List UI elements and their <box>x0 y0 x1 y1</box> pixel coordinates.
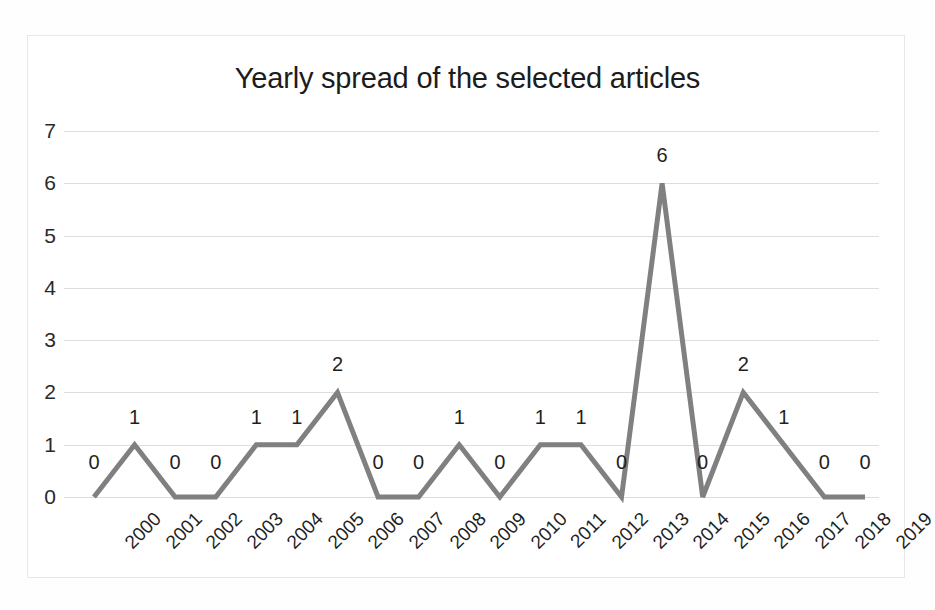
data-point-label: 1 <box>251 405 262 428</box>
x-axis-tick-label: 2006 <box>364 508 409 553</box>
y-axis-tick-label: 1 <box>30 433 56 457</box>
line-series <box>60 120 905 510</box>
x-axis-tick-label: 2012 <box>607 508 652 553</box>
x-axis-tick-label: 2018 <box>851 508 896 553</box>
x-axis-tick-label: 2014 <box>688 508 733 553</box>
data-point-label: 0 <box>494 451 505 474</box>
data-point-label: 1 <box>129 405 140 428</box>
y-axis-tick-label: 3 <box>30 328 56 352</box>
y-axis-tick-label: 4 <box>30 276 56 300</box>
data-point-label: 0 <box>819 451 830 474</box>
x-axis-tick-label: 2016 <box>770 508 815 553</box>
data-point-label: 2 <box>738 353 749 376</box>
x-axis-tick-label: 2011 <box>566 508 610 552</box>
data-point-label: 0 <box>616 451 627 474</box>
chart-title: Yearly spread of the selected articles <box>0 62 935 95</box>
y-axis-tick-label: 6 <box>30 171 56 195</box>
data-point-label: 1 <box>778 405 789 428</box>
y-axis-tick-label: 7 <box>30 119 56 143</box>
data-point-label: 0 <box>88 451 99 474</box>
data-point-label: 0 <box>170 451 181 474</box>
data-point-label: 0 <box>859 451 870 474</box>
x-axis: 2000200120022003200420052006200720082009… <box>60 500 905 590</box>
data-point-label: 0 <box>413 451 424 474</box>
data-point-label: 1 <box>535 405 546 428</box>
data-point-label: 6 <box>657 144 668 167</box>
data-point-label: 0 <box>697 451 708 474</box>
x-axis-tick-label: 2004 <box>283 508 328 553</box>
x-axis-tick-label: 2000 <box>120 508 165 553</box>
x-axis-tick-label: 2015 <box>729 508 774 553</box>
x-axis-tick-label: 2005 <box>323 508 368 553</box>
data-point-label: 1 <box>291 405 302 428</box>
data-point-label: 1 <box>575 405 586 428</box>
scanned-page: Yearly spread of the selected articles 0… <box>0 0 935 610</box>
x-axis-tick-label: 2013 <box>648 508 693 553</box>
data-point-label: 0 <box>210 451 221 474</box>
y-axis-tick-label: 0 <box>30 485 56 509</box>
x-axis-tick-label: 2010 <box>526 508 571 553</box>
x-axis-tick-label: 2019 <box>891 508 935 553</box>
y-axis-tick-label: 2 <box>30 380 56 404</box>
data-point-label: 0 <box>372 451 383 474</box>
x-axis-tick-label: 2009 <box>486 508 531 553</box>
y-axis-tick-label: 5 <box>30 224 56 248</box>
x-axis-tick-label: 2017 <box>810 508 855 553</box>
x-axis-tick-label: 2003 <box>242 508 287 553</box>
x-axis-tick-label: 2002 <box>202 508 247 553</box>
plot-area <box>60 120 905 510</box>
data-point-label: 2 <box>332 353 343 376</box>
x-axis-tick-label: 2007 <box>404 508 449 553</box>
data-point-label: 1 <box>454 405 465 428</box>
x-axis-tick-label: 2008 <box>445 508 490 553</box>
x-axis-tick-label: 2001 <box>161 508 206 553</box>
